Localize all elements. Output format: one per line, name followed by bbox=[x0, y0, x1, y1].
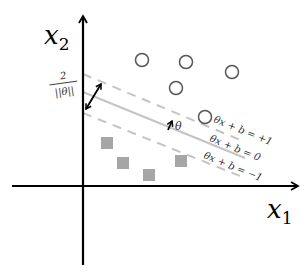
positive-point bbox=[199, 111, 212, 124]
negative-point bbox=[175, 155, 187, 167]
x-axis-label: x1 bbox=[267, 194, 293, 228]
svm-diagram: x2 x1 2 ||θ|| θ θx + b = +1 θx + b = 0 θ… bbox=[0, 0, 308, 273]
positive-margin-line bbox=[83, 74, 245, 142]
positive-point bbox=[170, 82, 183, 95]
negative-point bbox=[143, 169, 155, 181]
positive-point bbox=[136, 54, 149, 67]
positive-point bbox=[226, 66, 239, 79]
margin-label: 2 ||θ|| bbox=[48, 68, 80, 100]
margin-numerator: 2 bbox=[58, 70, 67, 82]
negative-point bbox=[117, 157, 129, 169]
positive-point bbox=[180, 56, 193, 69]
y-axis-label: x2 bbox=[44, 20, 70, 54]
negative-class-points bbox=[101, 137, 187, 181]
margin-denominator: ||θ|| bbox=[54, 85, 75, 100]
normal-vector-label: θ bbox=[175, 120, 182, 133]
margin-width-arrow bbox=[86, 84, 101, 109]
negative-point bbox=[101, 137, 113, 149]
positive-class-points bbox=[136, 54, 239, 124]
